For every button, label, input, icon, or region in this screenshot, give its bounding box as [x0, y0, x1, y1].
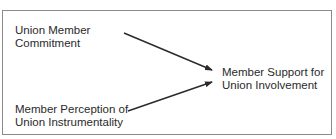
arrows-layer [0, 0, 336, 139]
arrow-perception-to-support [128, 82, 212, 111]
arrow-commitment-to-support [124, 33, 212, 70]
